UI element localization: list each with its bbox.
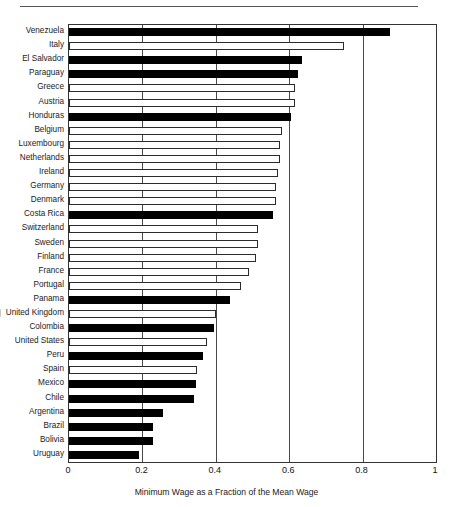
bar-row (69, 366, 436, 374)
bar-germany (69, 183, 276, 191)
category-label-peru: Peru (0, 350, 64, 360)
bar-portugal (69, 282, 241, 290)
category-label-mexico: Mexico (0, 378, 64, 388)
category-label-france: France (0, 266, 64, 276)
scan-artifact-smudge (0, 309, 1, 317)
category-label-sweden: Sweden (0, 238, 64, 248)
bar-row (69, 141, 436, 149)
bar-row (69, 155, 436, 163)
bar-row (69, 324, 436, 332)
x-axis-tick-labels: 00.20.40.60.81 (0, 464, 453, 478)
bar-row (69, 225, 436, 233)
category-label-denmark: Denmark (0, 195, 64, 205)
x-tick-label-1: 1 (432, 464, 437, 476)
category-label-el-salvador: El Salvador (0, 54, 64, 64)
bar-sweden (69, 240, 258, 248)
bar-united-states (69, 338, 207, 346)
bar-row (69, 240, 436, 248)
bar-france (69, 268, 249, 276)
x-tick-label-0-2: 0.2 (135, 464, 148, 476)
bar-row (69, 409, 436, 417)
bar-el-salvador (69, 56, 302, 64)
category-axis-labels: VenezuelaItalyEl SalvadorParaguayGreeceA… (0, 24, 64, 461)
bar-netherlands (69, 155, 280, 163)
bar-row (69, 99, 436, 107)
category-label-spain: Spain (0, 364, 64, 374)
bar-peru (69, 352, 203, 360)
x-tick-label-0-6: 0.6 (282, 464, 295, 476)
bar-mexico (69, 380, 196, 388)
bar-row (69, 169, 436, 177)
category-label-united-kingdom: United Kingdom (0, 308, 64, 318)
bar-row (69, 268, 436, 276)
bar-row (69, 197, 436, 205)
bar-belgium (69, 127, 282, 135)
bar-finland (69, 254, 256, 262)
bar-row (69, 254, 436, 262)
bar-ireland (69, 169, 278, 177)
bar-spain (69, 366, 197, 374)
bars-group (69, 25, 436, 462)
category-label-venezuela: Venezuela (0, 26, 64, 36)
bar-denmark (69, 197, 276, 205)
category-label-germany: Germany (0, 181, 64, 191)
bar-row (69, 42, 436, 50)
bar-row (69, 84, 436, 92)
category-label-united-states: United States (0, 336, 64, 346)
chart-page: VenezuelaItalyEl SalvadorParaguayGreeceA… (0, 0, 453, 507)
category-label-chile: Chile (0, 393, 64, 403)
bar-row (69, 423, 436, 431)
bar-austria (69, 99, 295, 107)
category-label-paraguay: Paraguay (0, 68, 64, 78)
bar-united-kingdom (69, 310, 216, 318)
bar-bolivia (69, 437, 153, 445)
category-label-netherlands: Netherlands (0, 153, 64, 163)
bar-switzerland (69, 225, 258, 233)
bar-luxembourg (69, 141, 280, 149)
x-axis-title: Minimum Wage as a Fraction of the Mean W… (0, 487, 453, 497)
category-label-portugal: Portugal (0, 280, 64, 290)
bar-venezuela (69, 28, 390, 36)
category-label-panama: Panama (0, 294, 64, 304)
x-tick-label-0: 0 (65, 464, 70, 476)
plot-area (68, 24, 437, 463)
category-label-ireland: Ireland (0, 167, 64, 177)
bar-brazil (69, 423, 153, 431)
bar-row (69, 28, 436, 36)
x-tick-label-0-4: 0.4 (209, 464, 222, 476)
bar-row (69, 127, 436, 135)
category-label-switzerland: Switzerland (0, 223, 64, 233)
bar-row (69, 296, 436, 304)
bar-greece (69, 84, 295, 92)
category-label-costa-rica: Costa Rica (0, 209, 64, 219)
category-label-greece: Greece (0, 82, 64, 92)
x-tick-label-0-8: 0.8 (355, 464, 368, 476)
bar-row (69, 380, 436, 388)
bar-row (69, 211, 436, 219)
bar-panama (69, 296, 230, 304)
bar-honduras (69, 113, 291, 121)
category-label-belgium: Belgium (0, 125, 64, 135)
category-label-honduras: Honduras (0, 111, 64, 121)
bar-row (69, 183, 436, 191)
bar-row (69, 282, 436, 290)
category-label-brazil: Brazil (0, 421, 64, 431)
bar-colombia (69, 324, 214, 332)
bar-italy (69, 42, 344, 50)
bar-row (69, 352, 436, 360)
category-label-bolivia: Bolivia (0, 435, 64, 445)
bar-row (69, 113, 436, 121)
category-label-luxembourg: Luxembourg (0, 139, 64, 149)
bar-uruguay (69, 451, 139, 459)
header-divider-rule (20, 6, 418, 7)
bar-paraguay (69, 70, 298, 78)
bar-row (69, 56, 436, 64)
bar-argentina (69, 409, 163, 417)
category-label-italy: Italy (0, 40, 64, 50)
bar-row (69, 437, 436, 445)
bar-row (69, 395, 436, 403)
category-label-argentina: Argentina (0, 407, 64, 417)
bar-costa-rica (69, 211, 273, 219)
category-label-colombia: Colombia (0, 322, 64, 332)
category-label-uruguay: Uruguay (0, 449, 64, 459)
